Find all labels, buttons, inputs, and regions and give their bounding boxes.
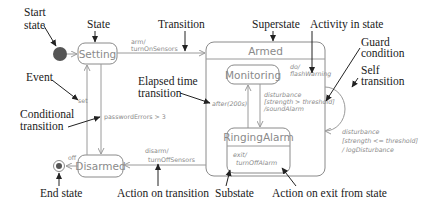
state-setting-label: Setting (79, 48, 117, 60)
transition-disarm-event: disarm/ (145, 147, 169, 154)
annotation-substate: Substate (215, 187, 254, 199)
self-transition-action: / logDisturbance (341, 146, 394, 154)
substate-monitoring-label: Monitoring (225, 69, 281, 81)
callout-start-state (44, 26, 56, 46)
annotation-guard-line2: condition (361, 47, 405, 59)
self-transition-guard: [strength <= threshold] (342, 137, 418, 145)
annotation-action-on-exit: Action on exit from state (272, 187, 387, 199)
annotation-transition: Transition (158, 18, 205, 30)
end-state-core (56, 163, 62, 169)
transition-arm-event: arm/ (131, 38, 146, 45)
ringing-exit-label: exit/ (233, 151, 248, 158)
annotation-conditional-line2: transition (20, 120, 64, 132)
transition-password-errors-label: passwordErrors > 3 (104, 113, 166, 121)
armed-do-label: do/ (290, 63, 301, 70)
ringing-exit-action: turnOffAlarm (236, 159, 277, 166)
substate-ringing-alarm-label: RingingAlarm (223, 131, 294, 143)
annotation-state: State (87, 18, 110, 30)
superstate-armed-label: Armed (248, 45, 283, 57)
transition-arm-action: turnOnSensors (131, 45, 178, 52)
state-disarmed-label: Disarmed (75, 160, 125, 172)
transition-disarm-action: turnOffSensors (148, 156, 195, 163)
self-transition-arrow (325, 87, 345, 131)
transition-set-label: set (78, 97, 88, 104)
annotation-conditional-line1: Conditional (20, 108, 74, 120)
transition-after-label: after(200s) (212, 100, 247, 107)
annotation-activity-in-state: Activity in state (310, 18, 383, 31)
callout-self-transition (352, 78, 358, 87)
self-transition-event: disturbance (342, 128, 379, 135)
annotation-start-state-line1: Start (24, 6, 47, 18)
callout-event (52, 80, 78, 100)
transition-off-label: off (68, 154, 77, 161)
annotation-self-line2: transition (361, 75, 405, 87)
annotation-superstate: Superstate (252, 18, 300, 31)
annotation-action-on-transition: Action on transition (117, 187, 209, 199)
start-state-node (53, 47, 67, 61)
transition-disturbance-action: /soundAlarm (263, 105, 304, 112)
annotation-start-state-line2: state (24, 19, 45, 31)
annotation-elapsed-line2: transition (138, 87, 182, 99)
annotation-end-state: End state (40, 187, 82, 199)
annotation-event: Event (26, 71, 54, 83)
transition-disturbance-event: disturbance (264, 91, 301, 98)
armed-do-activity: flashWarning (290, 70, 331, 78)
state-diagram: Setting arm/ turnOnSensors Armed do/ fla… (0, 0, 434, 209)
